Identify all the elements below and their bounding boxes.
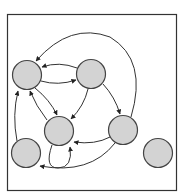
node-group	[12, 60, 173, 168]
node-a	[13, 61, 42, 90]
edge-a-to-c	[35, 88, 57, 115]
directed-graph-diagram	[0, 0, 184, 193]
node-b	[77, 60, 106, 89]
edge-e-to-a	[15, 91, 18, 141]
edge-d-to-c	[74, 137, 110, 143]
edge-c-to-a	[30, 91, 47, 120]
node-d	[109, 116, 138, 145]
edge-b-to-c	[71, 89, 88, 119]
node-e	[12, 139, 41, 168]
edge-c-to-c	[49, 145, 70, 168]
edge-a-to-b	[41, 80, 76, 83]
edge-b-to-d	[103, 84, 120, 114]
node-c	[45, 117, 74, 146]
node-f	[144, 139, 173, 168]
edge-b-to-a	[42, 64, 77, 68]
